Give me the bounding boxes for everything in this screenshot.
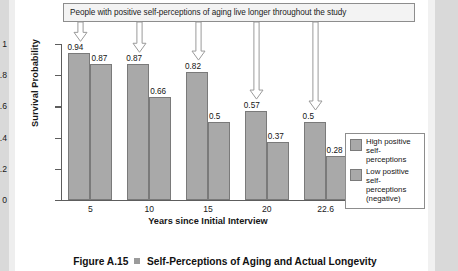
x-axis-title: Years since Initial Interview [61,216,355,226]
bar-value-label: 0.5 [303,112,314,121]
page-margin-right [435,0,458,271]
figure-number: Figure A.15 [73,256,128,267]
bar-value-label: 0.57 [244,101,260,110]
bar [186,72,208,200]
y-axis-tick-label: 0.8 [0,70,7,80]
bar [208,122,230,200]
y-axis-tick-label: 0.6 [0,101,7,111]
legend-item: High positive self-perceptions [350,138,421,164]
bar [127,64,149,200]
x-axis-tick-label: 10 [129,204,169,214]
figure-page: People with positive self-perceptions of… [0,0,458,271]
y-axis-title: Survival Probability [30,23,40,143]
legend-swatch-icon [350,169,362,181]
caption-square-icon [134,258,140,264]
y-axis-tick-label: 0.2 [0,164,7,174]
bar-value-label: 0.37 [268,132,284,141]
page-margin-right-inner [428,0,435,271]
bar-value-label: 0.5 [209,112,220,121]
y-axis-tick [55,75,61,76]
bar [149,97,171,200]
y-axis-tick-label: 0 [0,195,7,205]
y-axis-tick-label: 0.4 [0,133,7,143]
chart-legend: High positive self-perceptions Low posit… [345,133,425,209]
y-axis-line [61,44,62,200]
bar-chart: Survival Probability 00.20.40.60.81 0.94… [15,0,428,243]
y-axis-tick [55,138,61,139]
bar [68,53,90,200]
legend-item-label: Low positive self-perceptions (negative) [366,168,421,203]
bar [267,142,289,200]
bar [245,111,267,200]
y-axis-tick [55,44,61,45]
bar-value-label: 0.87 [126,54,142,63]
legend-item: Low positive self-perceptions (negative) [350,168,421,203]
x-axis-tick-label: 22.6 [306,204,346,214]
y-axis-tick [55,169,61,170]
y-axis-tick [55,106,61,107]
bar-value-label: 0.82 [185,62,201,71]
y-axis-tick [55,200,61,201]
y-axis-tick-label: 1 [0,39,7,49]
figure-body: People with positive self-perceptions of… [15,0,428,243]
bar-value-label: 0.28 [327,146,343,155]
legend-swatch-icon [350,139,362,151]
figure-title: Self-Perceptions of Aging and Actual Lon… [147,256,377,267]
bar-value-label: 0.87 [91,54,107,63]
bar-value-label: 0.94 [67,43,83,52]
legend-item-label: High positive self-perceptions [366,138,421,164]
bar [304,122,326,200]
x-axis-tick-label: 5 [70,204,110,214]
x-axis-tick-label: 15 [188,204,228,214]
bar-value-label: 0.66 [150,87,166,96]
figure-caption: Figure A.15 Self-Perceptions of Aging an… [15,256,435,267]
bar [90,64,112,200]
x-axis-tick-label: 20 [247,204,287,214]
